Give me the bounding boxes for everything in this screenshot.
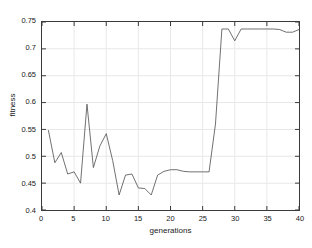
- y-tick-label: 0.5: [26, 153, 36, 161]
- x-axis-title: generations: [41, 227, 300, 235]
- x-tick-label: 10: [102, 215, 110, 223]
- y-tick-label: 0.75: [21, 17, 36, 25]
- y-tick-label: 0.65: [21, 72, 36, 80]
- x-tick-label: 30: [231, 215, 239, 223]
- y-tick-label: 0.4: [26, 207, 36, 215]
- y-tick-label: 0.55: [21, 126, 36, 134]
- x-tick-label: 20: [166, 215, 174, 223]
- x-tick-label: 5: [71, 215, 75, 223]
- plot-area: [41, 21, 300, 211]
- y-tick-label: 0.45: [21, 180, 36, 188]
- y-tick-label: 0.6: [26, 99, 36, 107]
- figure-canvas: fitness 0.40.450.50.550.60.650.70.75 051…: [0, 0, 312, 248]
- x-tick-label: 0: [39, 215, 43, 223]
- y-tick-label: 0.7: [26, 44, 36, 52]
- x-tick-label: 40: [296, 215, 304, 223]
- series-polyline: [48, 29, 299, 195]
- x-tick-label: 25: [199, 215, 207, 223]
- x-tick-label: 35: [263, 215, 271, 223]
- data-series-line: [42, 22, 299, 210]
- y-axis-tick-labels: 0.40.450.50.550.60.650.70.75: [0, 21, 36, 211]
- x-tick-label: 15: [134, 215, 142, 223]
